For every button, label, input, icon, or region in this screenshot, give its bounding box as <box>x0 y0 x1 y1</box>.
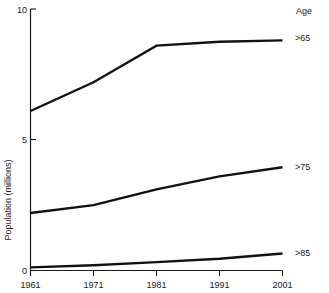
x-tick-label-2001: 2001 <box>272 280 292 290</box>
legend-label-over-65: >65 <box>295 33 310 43</box>
y-tick-label-0: 0 <box>22 266 27 276</box>
legend-title: Age <box>296 6 312 16</box>
y-tick-label-10: 10 <box>17 5 27 15</box>
y-tick-label-5: 5 <box>22 135 27 145</box>
line-chart: 10 5 0 Population (millions) 1961 1971 1… <box>0 0 329 293</box>
x-tick-label-1981: 1981 <box>146 280 166 290</box>
series-line-over-65 <box>31 40 283 111</box>
legend-label-over-75: >75 <box>295 162 310 172</box>
chart-container: 10 5 0 Population (millions) 1961 1971 1… <box>0 0 329 293</box>
series-line-over-75 <box>31 167 283 213</box>
series-line-over-85 <box>31 254 283 268</box>
y-axis-title: Population (millions) <box>3 159 13 240</box>
legend-label-over-85: >85 <box>295 248 310 258</box>
x-tick-label-1971: 1971 <box>83 280 103 290</box>
x-tick-label-1991: 1991 <box>209 280 229 290</box>
x-tick-label-1961: 1961 <box>20 280 40 290</box>
